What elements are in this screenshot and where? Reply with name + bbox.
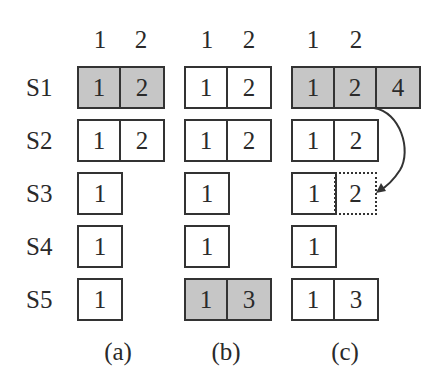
panel-a-s2-box: 1 2	[77, 119, 165, 162]
cell: 1	[293, 68, 335, 107]
panel-a-s5-box: 1	[77, 278, 123, 321]
panel-label-c: (c)	[320, 338, 370, 366]
cell: 1	[186, 174, 228, 213]
cell: 2	[121, 121, 163, 160]
row-label-s2: S2	[26, 119, 52, 162]
panel-a-s4-box: 1	[77, 225, 123, 268]
panel-b-s5-box: 1 3	[184, 278, 272, 321]
panel-b-s2-box: 1 2	[184, 119, 272, 162]
row-label-s3: S3	[26, 172, 52, 215]
cell: 1	[186, 227, 228, 266]
cell: 2	[335, 121, 377, 160]
cell: 1	[79, 68, 121, 107]
column-header-b-1: 1	[192, 27, 222, 52]
column-header-c-2: 2	[341, 27, 371, 52]
column-header-a-1: 1	[85, 27, 115, 52]
row-label-s1: S1	[26, 66, 52, 109]
panel-b-s1-box: 1 2	[184, 66, 272, 109]
panel-c-s3-dotted-cell: 2	[334, 172, 377, 215]
cell: 1	[186, 121, 228, 160]
panel-c-s1-box: 1 2 4	[291, 66, 421, 109]
cell: 1	[186, 280, 228, 319]
cell: 2	[335, 68, 377, 107]
cell: 1	[79, 121, 121, 160]
cell: 4	[377, 68, 419, 107]
column-header-a-2: 2	[126, 27, 156, 52]
cell: 2	[121, 68, 163, 107]
row-label-s4: S4	[26, 225, 52, 268]
cell: 1	[186, 68, 228, 107]
column-header-b-2: 2	[234, 27, 264, 52]
panel-c-s3-box: 1	[291, 172, 337, 215]
panel-c-s4-box: 1	[291, 225, 337, 268]
cell: 1	[293, 227, 335, 266]
cell: 1	[293, 121, 335, 160]
column-header-c-1: 1	[298, 27, 328, 52]
cell: 1	[79, 280, 121, 319]
cell: 1	[293, 280, 335, 319]
panel-a-s1-box: 1 2	[77, 66, 165, 109]
panel-label-b: (b)	[201, 338, 251, 366]
cell: 2	[228, 121, 270, 160]
cell: 1	[79, 174, 121, 213]
panel-b-s3-box: 1	[184, 172, 230, 215]
cell: 3	[335, 280, 377, 319]
panel-a-s3-box: 1	[77, 172, 123, 215]
panel-label-a: (a)	[93, 338, 143, 366]
panel-b-s4-box: 1	[184, 225, 230, 268]
cell: 1	[79, 227, 121, 266]
panel-c-s5-box: 1 3	[291, 278, 379, 321]
cell: 3	[228, 280, 270, 319]
cell: 2	[228, 68, 270, 107]
row-label-s5: S5	[26, 278, 52, 321]
cell: 1	[293, 174, 335, 213]
panel-c-s2-box: 1 2	[291, 119, 379, 162]
